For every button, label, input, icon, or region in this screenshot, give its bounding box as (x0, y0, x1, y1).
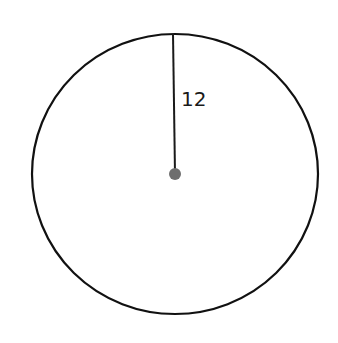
circle-diagram: 12 (0, 0, 338, 343)
radius-label: 12 (181, 87, 206, 111)
center-point (169, 168, 181, 180)
radius-line (173, 34, 175, 174)
